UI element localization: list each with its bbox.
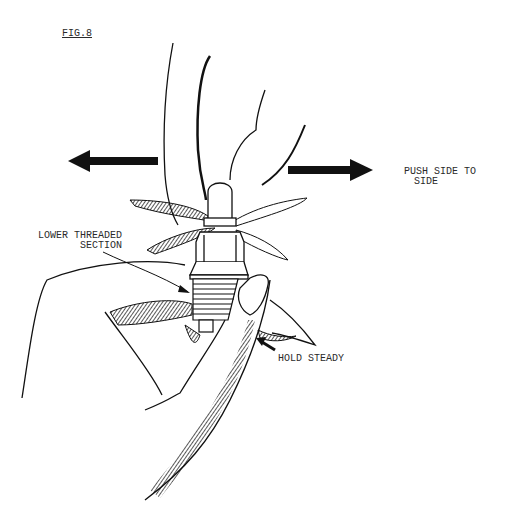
figure-title: FIG.8 bbox=[62, 28, 92, 39]
upper-hand-outline bbox=[164, 43, 305, 225]
thumb-shading bbox=[150, 320, 255, 498]
patent-figure: FIG.8 PUSH SIDE TO SIDE LOWER THREADED S… bbox=[0, 0, 509, 520]
lower-hand-outline bbox=[22, 262, 315, 500]
blade-assembly-drawing bbox=[0, 0, 509, 520]
blade-left-upper bbox=[130, 200, 215, 222]
lower-threaded-leader bbox=[103, 252, 188, 292]
threaded-section bbox=[193, 279, 238, 332]
right-arrow-icon bbox=[288, 159, 373, 181]
hold-steady-label: HOLD STEADY bbox=[278, 353, 344, 364]
lower-threaded-label-line2: SECTION bbox=[80, 240, 122, 251]
left-arrow-icon bbox=[68, 150, 158, 172]
blade-right-upper bbox=[232, 198, 307, 226]
hatched-finger bbox=[110, 301, 192, 325]
push-side-label-line2: SIDE bbox=[414, 176, 438, 187]
